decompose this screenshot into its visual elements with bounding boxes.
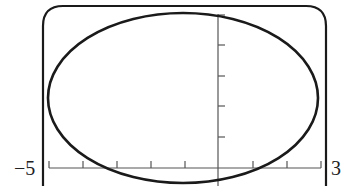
plot-frame <box>43 6 326 186</box>
y-axis-ticks <box>218 15 225 137</box>
x-min-label: −5 <box>14 158 35 178</box>
x-axis-ticks <box>49 161 321 168</box>
ellipse-curve <box>48 13 318 183</box>
ellipse-plot <box>0 0 347 186</box>
x-max-label: 3 <box>331 158 341 178</box>
